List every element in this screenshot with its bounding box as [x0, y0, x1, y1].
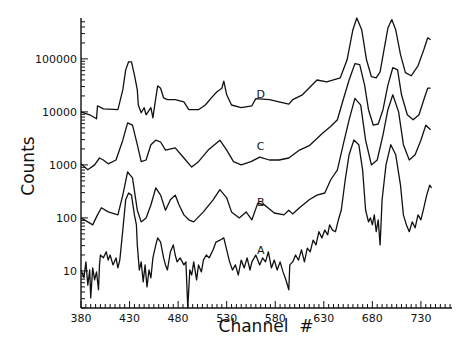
series-label-a: A — [257, 244, 265, 257]
x-tick-label: 730 — [410, 312, 431, 325]
spectrum-chart: 380430480530580630680730 101001000100001… — [0, 0, 471, 360]
y-tick-label: 100000 — [35, 53, 77, 66]
series-labels: DCBA — [256, 88, 264, 257]
y-tick-label: 10000 — [42, 106, 77, 119]
y-tick-labels: 10100100010000100000 — [35, 53, 77, 278]
x-tick-label: 630 — [313, 312, 334, 325]
curves — [81, 18, 432, 308]
curve-d — [81, 18, 431, 119]
y-tick-label: 10 — [63, 265, 77, 278]
series-label-c: C — [257, 140, 265, 153]
x-tick-label: 680 — [362, 312, 383, 325]
y-tick-label: 100 — [56, 212, 77, 225]
series-label-d: D — [256, 88, 264, 101]
x-axis-title: Channel # — [219, 316, 314, 336]
x-ticks — [81, 301, 450, 308]
series-label-b: B — [257, 196, 265, 209]
y-axis-title: Counts — [18, 136, 38, 195]
y-tick-label: 1000 — [49, 159, 77, 172]
x-tick-label: 430 — [119, 312, 140, 325]
curve-a — [81, 140, 432, 308]
x-tick-label: 480 — [168, 312, 189, 325]
x-tick-label: 380 — [71, 312, 92, 325]
